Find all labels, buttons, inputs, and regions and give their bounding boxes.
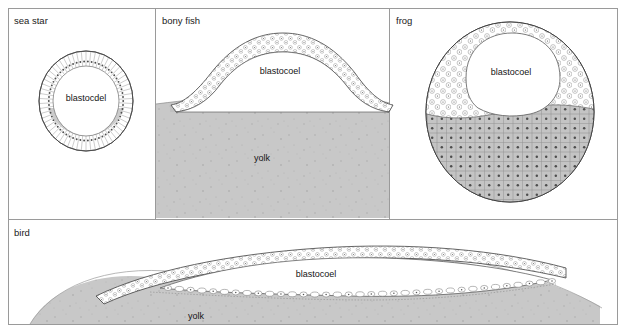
bird-hypoblast-cell [333,292,341,297]
panel-bony-fish: bony fish blastocoel yolk [156,15,393,218]
sea-star-nucleus [69,65,71,67]
sea-star-nucleus [62,69,64,71]
sea-star-nucleus [98,63,100,65]
sea-star-nucleus [50,88,52,90]
sea-star-nucleus [101,136,103,138]
sea-star-nucleus [65,134,67,136]
bird-hypoblast-cell [424,289,432,294]
bird-hypoblast-cell [469,286,477,291]
sea-star-nucleus [121,112,123,114]
label-frog-blastocoel: blastocoel [491,67,532,77]
sea-star-nucleus [101,65,103,67]
bird-hypoblast-cell [514,282,522,287]
sea-star-nucleus [65,67,67,69]
sea-star-nucleus [108,69,110,71]
sea-star-nucleus [83,61,85,63]
sea-star-nucleus [121,88,123,90]
sea-star-nucleus [79,61,81,63]
blastula-diagram: sea star blastocdel bony fish blastocoel… [0,0,626,333]
sea-star-nucleus [111,129,113,131]
sea-star-nucleus [94,62,96,64]
bird-hypoblast-nucleus [393,293,395,295]
bird-hypoblast-cell [356,292,364,297]
bird-hypoblast-nucleus [438,290,440,292]
bird-hypoblast-nucleus [416,292,418,294]
frog-vegetal-pole-cells [420,105,606,210]
sea-star-nucleus [62,131,64,133]
bird-hypoblast-cell [198,288,206,293]
sea-star-nucleus [76,138,78,140]
sea-star-nucleus [72,137,74,139]
bird-hypoblast-cell [491,284,499,289]
bird-hypoblast-cell [265,291,273,296]
sea-star-nucleus [69,136,71,138]
sea-star-nucleus [87,61,89,63]
panel-label-bird: bird [14,227,30,238]
panel-label-bony-fish: bony fish [162,15,200,26]
sea-star-nucleus [122,100,124,102]
sea-star-nucleus [105,134,107,136]
bird-hypoblast-nucleus [529,283,531,285]
panel-frog: frog blastocoel [396,15,606,210]
panel-bird: bird blastocoel yolk [14,227,602,324]
label-bony-fish-yolk: yolk [254,153,271,163]
bird-hypoblast-cell [378,291,386,296]
sea-star-nucleus [72,63,74,65]
bird-hypoblast-cell [220,289,228,294]
sea-star-nucleus [87,140,89,142]
sea-star-nucleus [57,74,59,76]
sea-star-nucleus [49,108,51,110]
bird-hypoblast-nucleus [303,294,305,296]
label-bony-fish-blastocoel: blastocoel [260,66,301,76]
sea-star-nucleus [119,84,121,86]
sea-star-nucleus [79,139,81,141]
bird-hypoblast-cell [401,290,409,295]
bird-hypoblast-nucleus [280,293,282,295]
bird-hypoblast-nucleus [348,294,350,296]
sea-star-nucleus [48,100,50,102]
sea-star-nucleus [76,62,78,64]
sea-star-nucleus [108,131,110,133]
bird-hypoblast-nucleus [258,293,260,295]
sea-star-nucleus [105,67,107,69]
sea-star-nucleus [51,116,53,118]
sea-star-nucleus [111,71,113,73]
sea-star-nucleus [48,104,50,106]
sea-star-nucleus [48,96,50,98]
bird-hypoblast-nucleus [167,287,169,289]
sea-star-nucleus [121,108,123,110]
bony-fish-yolk-mass [156,99,389,218]
bird-hypoblast-nucleus [371,293,373,295]
sea-star-nucleus [118,119,120,121]
sea-star-nucleus [122,104,124,106]
bird-hypoblast-cell [311,292,319,297]
sea-star-nucleus [55,77,57,79]
sea-star-nucleus [91,139,93,141]
bird-hypoblast-nucleus [190,289,192,291]
bird-hypoblast-nucleus [235,292,237,294]
bird-hypoblast-cell [243,290,251,295]
sea-star-nucleus [57,126,59,128]
sea-star-nucleus [53,119,55,121]
sea-star-nucleus [83,140,85,142]
sea-star-nucleus [121,92,123,94]
sea-star-nucleus [55,123,57,125]
panel-sea-star: sea star blastocdel [14,15,133,151]
bird-hypoblast-cell [537,280,545,285]
bird-hypoblast-nucleus [483,287,485,289]
bird-hypoblast-cell [446,288,454,293]
sea-star-nucleus [50,112,52,114]
panel-label-sea-star: sea star [14,15,48,26]
sea-star-nucleus [116,123,118,125]
bird-hypoblast-nucleus [212,290,214,292]
sea-star-nucleus [98,137,100,139]
sea-star-nucleus [49,92,51,94]
bird-hypoblast-nucleus [325,294,327,296]
label-bird-yolk: yolk [188,311,205,321]
bird-hypoblast-cell [175,286,183,291]
label-bird-blastocoel: blastocoel [296,269,337,279]
bird-hypoblast-nucleus [506,285,508,287]
sea-star-nucleus [59,129,61,131]
sea-star-nucleus [91,61,93,63]
bird-hypoblast-nucleus [461,289,463,291]
